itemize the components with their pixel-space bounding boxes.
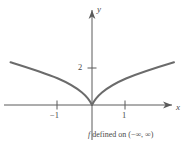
curve-right-branch <box>92 62 174 105</box>
function-plot <box>0 0 187 150</box>
x-tick-label-pos1: 1 <box>122 111 126 120</box>
x-axis-label: x <box>176 103 180 112</box>
figure-container: y x −1 1 2 f defined on (−∞, ∞) <box>0 0 187 150</box>
y-axis-label: y <box>97 5 101 14</box>
figure-caption: f defined on (−∞, ∞) <box>88 131 153 140</box>
x-tick-label-neg1: −1 <box>50 111 59 120</box>
y-tick-label-two: 2 <box>78 63 82 72</box>
caption-domain-text: defined on (−∞, ∞) <box>90 130 153 139</box>
